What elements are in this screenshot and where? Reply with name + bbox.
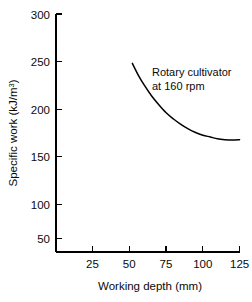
x-tick-label-100: 100 bbox=[193, 258, 212, 270]
x-axis-title: Working depth (mm) bbox=[98, 280, 202, 292]
y-tick-label-150: 150 bbox=[31, 151, 50, 163]
y-axis-title-base: Specific work (kJ/m bbox=[7, 87, 19, 186]
y-tick-label-250: 250 bbox=[31, 56, 50, 68]
x-axis-tick-labels: 25 50 75 100 125 bbox=[86, 258, 249, 270]
y-tick-label-300: 300 bbox=[31, 9, 50, 21]
annotation-line-2: at 160 rpm bbox=[152, 80, 205, 92]
annotation-line-1: Rotary cultivator bbox=[152, 66, 232, 78]
y-axis-ticks bbox=[56, 14, 62, 238]
y-tick-label-200: 200 bbox=[31, 104, 50, 116]
curve-annotation: Rotary cultivator at 160 rpm bbox=[152, 66, 232, 92]
x-tick-label-125: 125 bbox=[230, 258, 249, 270]
y-axis-title-close: ) bbox=[7, 79, 19, 83]
x-tick-label-50: 50 bbox=[123, 258, 136, 270]
x-tick-label-75: 75 bbox=[160, 258, 173, 270]
y-tick-label-50: 50 bbox=[37, 233, 50, 245]
y-axis-title: Specific work (kJ/m3) bbox=[7, 79, 20, 186]
x-tick-label-25: 25 bbox=[86, 258, 99, 270]
y-tick-label-100: 100 bbox=[31, 199, 50, 211]
axes-group bbox=[56, 14, 240, 252]
x-axis-ticks bbox=[92, 246, 239, 252]
chart-figure: 300 250 200 150 100 50 25 50 75 100 125 … bbox=[0, 0, 252, 302]
chart-canvas: 300 250 200 150 100 50 25 50 75 100 125 … bbox=[0, 0, 252, 302]
y-axis-tick-labels: 300 250 200 150 100 50 bbox=[31, 9, 50, 245]
